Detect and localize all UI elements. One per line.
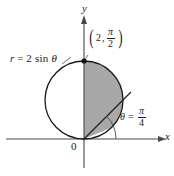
point-radius-value: 2 xyxy=(96,33,101,43)
point-angle-denominator: 2 xyxy=(107,39,114,49)
figure-canvas xyxy=(0,0,174,176)
point-open-paren: ( xyxy=(89,29,93,46)
y-axis-label: y xyxy=(82,3,87,14)
curve-theta-symbol: θ xyxy=(51,53,57,64)
curve-equals-sign: = xyxy=(17,54,23,64)
point-angle-numerator: π xyxy=(107,27,114,37)
shaded-region xyxy=(84,61,123,139)
curve-r-symbol: r xyxy=(10,53,14,64)
angle-denominator: 4 xyxy=(138,118,145,128)
origin-label: 0 xyxy=(71,141,77,152)
point-comma: , xyxy=(102,33,105,43)
point-label: ( 2 , π 2 ) xyxy=(88,27,124,49)
angle-theta-symbol: θ xyxy=(120,112,125,122)
angle-equals-sign: = xyxy=(128,112,134,122)
x-axis-label: x xyxy=(165,131,170,142)
angle-numerator: π xyxy=(138,106,145,116)
curve-sin-function: sin xyxy=(35,53,48,64)
curve-equation-label: r = 2 sin θ xyxy=(10,53,57,64)
point-close-paren: ) xyxy=(118,29,122,46)
angle-fraction: π 4 xyxy=(138,106,146,128)
curve-coefficient: 2 xyxy=(26,53,32,64)
point-angle-fraction: π 2 xyxy=(107,27,115,49)
point-marker xyxy=(81,58,86,63)
curve-label-leader xyxy=(62,57,71,64)
polar-curve-figure: r = 2 sin θ ( 2 , π 2 ) θ = π xyxy=(0,0,174,176)
angle-label: θ = π 4 xyxy=(120,106,147,128)
